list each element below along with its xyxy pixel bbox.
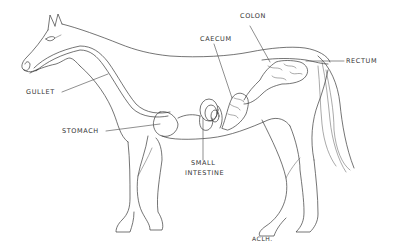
rectum-label: RECTUM <box>346 57 377 65</box>
horse-head <box>22 14 80 73</box>
colon-label: COLON <box>240 12 266 20</box>
stomach <box>153 112 178 137</box>
horse-hind-legs <box>259 70 328 236</box>
signature: ACLH. <box>252 235 273 243</box>
colon-leader <box>250 26 270 62</box>
horse-topline <box>62 24 330 62</box>
small-intestine-label-line1: SMALL <box>191 159 215 167</box>
gullet-label: GULLET <box>26 88 55 96</box>
stomach-outlet <box>178 115 200 118</box>
caecum-label: CAECUM <box>200 35 232 43</box>
horse-front-legs <box>116 136 163 232</box>
colon <box>244 61 308 105</box>
gullet-tube <box>34 46 170 117</box>
stomach-leader <box>106 124 160 131</box>
horse-tail <box>318 56 354 172</box>
horse-digestive-diagram <box>0 0 394 252</box>
caecum-leader <box>214 44 232 98</box>
stomach-label: STOMACH <box>62 127 99 135</box>
small-intestine-label-line2: INTESTINE <box>185 169 224 177</box>
horse-belly <box>162 118 290 139</box>
